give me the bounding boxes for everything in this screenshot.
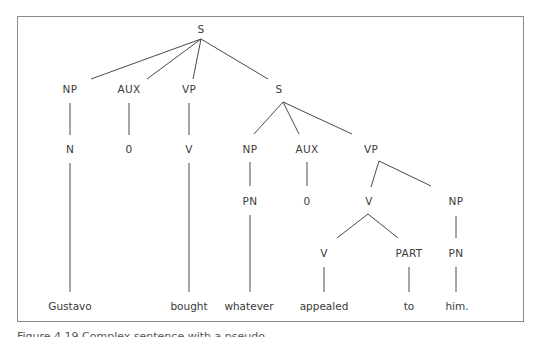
edge-vp2-v bbox=[371, 161, 379, 187]
node-aux-zero: 0 bbox=[126, 143, 133, 155]
node-embedded-aux-zero: 0 bbox=[304, 195, 311, 207]
node-object-np: NP bbox=[449, 195, 464, 207]
node-part: PART bbox=[396, 247, 423, 259]
node-verb-v: V bbox=[320, 247, 328, 259]
node-np: NP bbox=[63, 83, 78, 95]
syntax-tree: S NP AUX VP S N 0 V NP AUX VP PN 0 V NP … bbox=[0, 0, 539, 337]
node-n: N bbox=[66, 143, 74, 155]
figure-caption: Figure 4.19 Complex sentence with a pseu… bbox=[17, 329, 280, 337]
word-appealed: appealed bbox=[300, 300, 349, 312]
node-embedded-vp: VP bbox=[364, 143, 378, 155]
node-vp: VP bbox=[182, 83, 196, 95]
word-bought: bought bbox=[170, 300, 207, 312]
node-pn: PN bbox=[243, 195, 258, 207]
node-object-pn: PN bbox=[449, 247, 464, 259]
edge-s-vp bbox=[193, 39, 201, 79]
edge-vp2-np bbox=[379, 161, 431, 186]
edge-s-np bbox=[91, 39, 201, 79]
node-root-s: S bbox=[198, 23, 205, 35]
tree-words: Gustavo bought whatever appealed to him. bbox=[48, 300, 468, 312]
word-gustavo: Gustavo bbox=[48, 300, 91, 312]
node-embedded-v: V bbox=[365, 195, 373, 207]
edge-v2-v3 bbox=[337, 214, 368, 238]
node-aux: AUX bbox=[118, 83, 141, 95]
node-embedded-np: NP bbox=[243, 143, 258, 155]
node-embedded-s: S bbox=[276, 83, 283, 95]
edge-s2-np bbox=[254, 102, 283, 134]
edge-s2-aux bbox=[283, 102, 299, 134]
word-him: him. bbox=[445, 300, 468, 312]
edge-s2-vp bbox=[283, 102, 352, 134]
node-embedded-aux: AUX bbox=[296, 143, 319, 155]
word-whatever: whatever bbox=[224, 300, 274, 312]
edge-v2-part bbox=[368, 214, 398, 238]
node-v: V bbox=[185, 143, 193, 155]
edge-s-aux bbox=[147, 39, 201, 79]
word-to: to bbox=[404, 300, 415, 312]
edge-s-s bbox=[201, 39, 268, 79]
tree-nodes: S NP AUX VP S N 0 V NP AUX VP PN 0 V NP … bbox=[63, 23, 464, 259]
